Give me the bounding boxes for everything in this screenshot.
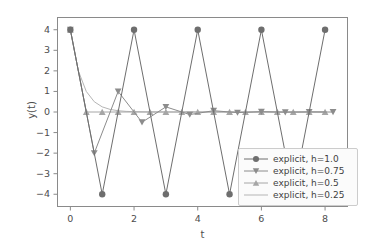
y-tick-label: 3: [17, 45, 50, 55]
data-marker-circle: [195, 27, 201, 33]
data-marker-circle: [163, 191, 169, 197]
data-marker-circle: [253, 156, 259, 162]
y-tick-label: −2: [17, 148, 50, 158]
data-marker-circle: [99, 191, 105, 197]
legend-sample-2: [243, 177, 269, 189]
legend-sample-0: [243, 153, 269, 165]
plot-svg: [0, 0, 365, 250]
y-tick-label: 4: [17, 25, 50, 35]
legend-item[interactable]: explicit, h=0.25: [243, 189, 352, 201]
data-marker-circle: [258, 27, 264, 33]
figure-canvas: 43210−1−2−3−4 02468 y(t) t explicit, h=1…: [0, 0, 365, 250]
legend-sample-3: [243, 189, 269, 201]
x-tick-label: 6: [241, 214, 281, 224]
y-axis-label: y(t): [27, 80, 37, 140]
data-marker-circle: [67, 27, 73, 33]
data-marker-circle: [131, 27, 137, 33]
legend-label: explicit, h=0.5: [273, 179, 339, 188]
x-tick-label: 2: [114, 214, 154, 224]
x-axis-label: t: [173, 230, 233, 240]
legend-label: explicit, h=1.0: [273, 155, 339, 164]
x-tick-label: 8: [305, 214, 345, 224]
y-tick-label: −3: [17, 169, 50, 179]
data-marker-circle: [226, 191, 232, 197]
data-marker-circle: [322, 27, 328, 33]
legend-label: explicit, h=0.25: [273, 191, 344, 200]
legend-sample-1: [243, 165, 269, 177]
y-tick-label: 2: [17, 66, 50, 76]
legend-item[interactable]: explicit, h=1.0: [243, 153, 352, 165]
legend-item[interactable]: explicit, h=0.5: [243, 177, 352, 189]
y-tick-label: −4: [17, 189, 50, 199]
legend-label: explicit, h=0.75: [273, 167, 344, 176]
x-tick-label: 4: [178, 214, 218, 224]
x-tick-label: 0: [50, 214, 90, 224]
legend-box: explicit, h=1.0 explicit, h=0.75 explici…: [238, 148, 358, 206]
legend-item[interactable]: explicit, h=0.75: [243, 165, 352, 177]
